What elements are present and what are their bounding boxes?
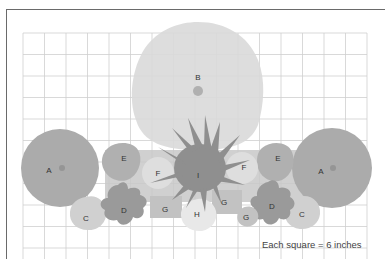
label-I: I [197,171,199,180]
plant-A-right-dot [330,165,336,171]
plant-B-center-dot [193,86,203,96]
label-D-left: D [121,206,127,215]
plant-A-left-dot [59,165,65,171]
label-D-right: D [269,202,275,211]
scale-caption: Each square = 6 inches [262,239,362,250]
label-B: B [195,73,200,82]
label-C-right: C [299,210,305,219]
label-A-right: A [318,167,324,176]
label-G-right: G [243,213,249,222]
label-G-center-right: G [221,198,227,207]
plant-B-shape [132,22,263,150]
label-E-left: E [121,154,126,163]
label-G-left: G [162,205,168,214]
label-E-right: E [275,154,280,163]
garden-plan: B A A E E F F I C C D D G G G H Each squ… [0,0,385,259]
label-F-right: F [242,163,247,172]
label-A-left: A [46,166,52,175]
label-H: H [194,210,200,219]
label-C-left: C [83,214,89,223]
label-F-left: F [156,169,161,178]
